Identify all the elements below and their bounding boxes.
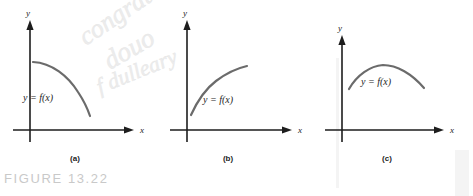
panel-b: y x y = f(x) (b) <box>170 8 302 163</box>
panel-b-curve-label: y = f(x) <box>202 94 234 106</box>
panel-c-sublabel: (c) <box>382 154 392 163</box>
panel-a-x-axis-arrowhead <box>124 126 134 133</box>
panel-a-y-axis-label: y <box>25 8 30 18</box>
panel-a-y-axis-arrowhead <box>26 20 33 30</box>
panel-a-curve <box>33 62 90 116</box>
panel-b-y-axis-label: y <box>182 8 187 18</box>
figure-caption: FIGURE 13.22 <box>4 171 108 186</box>
panel-c-x-axis-arrowhead <box>434 126 444 133</box>
watermark-overlay: congrat douo f dulleary <box>73 0 181 99</box>
panel-c-y-axis-label: y <box>337 23 342 33</box>
panel-b-curve <box>191 66 247 115</box>
panel-b-sublabel: (b) <box>223 154 234 163</box>
panel-a-sublabel: (a) <box>70 154 80 163</box>
panel-c-y-axis-arrowhead <box>338 35 345 45</box>
panel-b-x-axis-label: x <box>297 125 302 135</box>
panel-a-x-axis-label: x <box>139 125 144 135</box>
panel-b-y-axis-arrowhead <box>183 20 190 30</box>
panel-c-x-axis-label: x <box>449 125 454 135</box>
figure-container: congrat douo f dulleary y x y = f(x) (a) <box>0 0 473 196</box>
panel-a-curve-label: y = f(x) <box>22 92 54 104</box>
panel-b-x-axis-arrowhead <box>282 126 292 133</box>
panel-c: y x y = f(x) (c) <box>325 23 454 163</box>
panel-c-curve-label: y = f(x) <box>360 76 392 88</box>
figure-graphic: congrat douo f dulleary y x y = f(x) (a) <box>0 0 473 196</box>
